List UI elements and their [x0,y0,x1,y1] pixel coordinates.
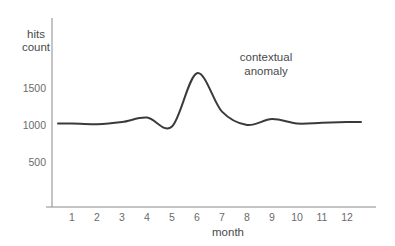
x-tick-label-8: 8 [238,211,256,224]
x-tick-label-6: 6 [188,211,206,224]
x-tick-label-4: 4 [138,211,156,224]
chart-container: hitscount 1500 1000 500 1 2 3 4 5 6 7 8 … [0,0,395,246]
y-axis-title-line1: hits [27,28,45,40]
x-tick-label-12: 12 [338,211,356,224]
data-series-line [58,73,361,128]
y-tick-label-1500: 1500 [8,82,46,95]
x-tick-label-9: 9 [263,211,281,224]
annotation-line1: contextual [240,51,292,63]
x-tick-label-7: 7 [213,211,231,224]
x-tick-label-10: 10 [288,211,306,224]
y-axis-title: hitscount [14,28,58,54]
y-tick-label-500: 500 [8,156,46,169]
x-tick-label-11: 11 [313,211,331,224]
x-tick-label-3: 3 [113,211,131,224]
x-tick-label-5: 5 [163,211,181,224]
x-tick-label-2: 2 [88,211,106,224]
line-chart-plot [0,0,395,246]
y-tick-label-1000: 1000 [8,119,46,132]
y-axis-title-line2: count [22,41,50,53]
contextual-anomaly-annotation: contextualanomaly [218,50,314,78]
x-axis-title: month [198,226,258,239]
x-tick-label-1: 1 [63,211,81,224]
annotation-line2: anomaly [244,65,287,77]
